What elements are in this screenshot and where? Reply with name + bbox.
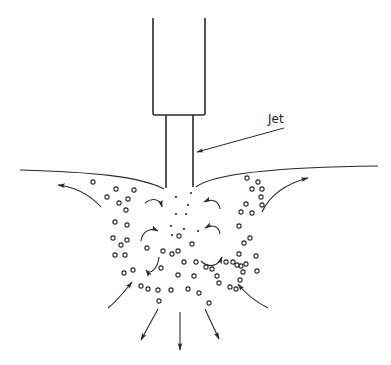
bubble	[145, 246, 149, 250]
bubble	[105, 195, 109, 199]
free-surface-right	[196, 166, 378, 187]
bubble	[186, 287, 190, 291]
gas-dot	[197, 230, 199, 232]
bubble	[245, 176, 249, 180]
bubble	[250, 187, 254, 191]
bubble	[210, 267, 214, 271]
bubble	[176, 273, 180, 277]
bubble	[192, 274, 196, 278]
bubble	[244, 262, 248, 266]
bubble	[113, 220, 117, 224]
bubble	[119, 243, 123, 247]
nozzle-outer-tube	[153, 18, 205, 115]
nozzle	[153, 18, 205, 188]
bubble	[237, 252, 241, 256]
gas-dot	[190, 192, 192, 194]
bubble	[239, 210, 243, 214]
bubbles	[91, 176, 264, 305]
bubble	[177, 234, 181, 238]
bubble	[234, 287, 238, 291]
bubble	[91, 180, 95, 184]
swirl-lower-left	[146, 257, 159, 272]
swirl-mid-right	[205, 226, 220, 234]
gas-dot	[183, 228, 185, 230]
bubble	[125, 223, 129, 227]
bubble	[157, 299, 161, 303]
bubble	[207, 301, 211, 305]
bubble	[256, 180, 260, 184]
swirl-mid-left	[141, 230, 158, 241]
bubble	[159, 266, 163, 270]
bubble	[241, 270, 245, 274]
bubble	[126, 197, 130, 201]
bubble	[122, 271, 126, 275]
bubble	[124, 208, 128, 212]
arrow-up-right	[262, 178, 308, 212]
gas-dot	[187, 204, 189, 206]
bubble	[156, 288, 160, 292]
bubble	[131, 268, 135, 272]
gas-dot	[175, 196, 177, 198]
gas-dot	[170, 225, 172, 227]
gas-dot	[171, 234, 173, 236]
bubble	[194, 260, 198, 264]
gas-dots	[170, 192, 199, 236]
bubble	[260, 187, 264, 191]
bubble	[235, 263, 239, 267]
bubble	[260, 203, 264, 207]
bubble	[182, 260, 186, 264]
bubble	[190, 242, 194, 246]
bubble	[161, 249, 165, 253]
arrow-in-lower-left	[108, 282, 132, 308]
bubble	[244, 202, 248, 206]
gas-dot	[175, 213, 177, 215]
bubble	[197, 291, 201, 295]
bubble	[170, 252, 174, 256]
arrow-down-right	[205, 309, 219, 339]
bubble	[132, 188, 136, 192]
bubble	[111, 236, 115, 240]
bubble	[215, 274, 219, 278]
bubble	[254, 254, 258, 258]
gas-dot	[185, 213, 187, 215]
bubble	[217, 281, 221, 285]
bubble	[224, 260, 228, 264]
bubble	[123, 253, 127, 257]
jet-diagram: Jet	[0, 0, 391, 365]
bubble	[250, 211, 254, 215]
bubble	[117, 201, 121, 205]
bubble	[228, 285, 232, 289]
bubble	[248, 236, 252, 240]
swirl-upper-left	[145, 200, 162, 207]
bubble	[259, 195, 263, 199]
bubble	[242, 241, 246, 245]
bubble	[169, 288, 173, 292]
bubble	[114, 187, 118, 191]
bubble	[176, 249, 180, 253]
arrow-up-left	[58, 185, 101, 207]
bubble	[255, 269, 259, 273]
swirl-lower-right	[201, 257, 222, 266]
swirl-upper-right	[204, 200, 220, 209]
jet-label-group: Jet	[197, 112, 284, 152]
bubble	[113, 253, 117, 257]
arrow-in-lower-right	[238, 284, 268, 308]
jet-label: Jet	[267, 112, 284, 126]
bubble	[139, 284, 143, 288]
bubble	[231, 260, 235, 264]
free-surface	[20, 166, 378, 189]
bubble	[238, 278, 242, 282]
free-surface-left	[20, 170, 164, 189]
bubble	[125, 238, 129, 242]
bubble	[146, 287, 150, 291]
arrow-down-left	[141, 309, 158, 340]
bubble	[237, 224, 241, 228]
jet-leader-line	[197, 128, 284, 152]
